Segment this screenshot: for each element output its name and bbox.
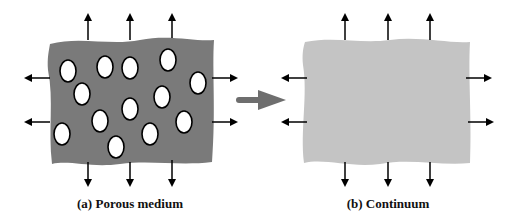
caption-continuum: (b) Continuum bbox=[347, 196, 430, 212]
pore bbox=[54, 123, 70, 145]
pore bbox=[122, 57, 138, 79]
pore bbox=[154, 86, 170, 108]
pore bbox=[74, 83, 90, 105]
pore bbox=[97, 56, 113, 78]
continuum-panel bbox=[283, 15, 492, 185]
caption-porous-medium: (a) Porous medium bbox=[77, 196, 183, 212]
pore bbox=[122, 98, 138, 120]
pore bbox=[190, 72, 206, 94]
pore bbox=[60, 60, 76, 82]
transition-arrow-icon bbox=[236, 90, 286, 110]
diagram-canvas bbox=[0, 0, 514, 224]
continuum-body bbox=[303, 39, 471, 165]
porous-medium-panel bbox=[26, 15, 236, 185]
diagram: (a) Porous medium (b) Continuum bbox=[0, 0, 514, 224]
pore bbox=[92, 110, 108, 132]
pore bbox=[142, 123, 158, 145]
pore bbox=[108, 136, 124, 158]
pore bbox=[160, 49, 176, 71]
pore bbox=[176, 111, 192, 133]
